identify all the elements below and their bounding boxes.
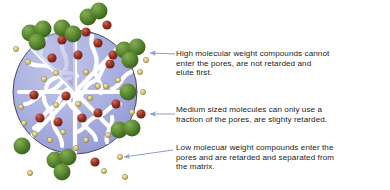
small-molecule <box>13 46 18 51</box>
small-molecule <box>32 131 37 136</box>
medium-molecule-callout-target <box>136 109 145 118</box>
small-molecule <box>75 101 80 106</box>
small-molecule <box>101 168 106 173</box>
callout-high-molecular-weight: High molecular weight compounds cannot e… <box>176 49 384 78</box>
small-molecule <box>21 120 26 125</box>
large-molecule-cluster <box>47 149 77 181</box>
medium-molecule <box>73 50 82 59</box>
medium-molecule <box>93 38 102 47</box>
large-molecule-cluster <box>80 3 108 26</box>
small-molecule <box>129 109 134 114</box>
small-molecule <box>25 59 30 64</box>
medium-molecule <box>90 157 99 166</box>
small-molecule <box>60 129 65 134</box>
small-molecule <box>122 174 127 179</box>
callout-low-molecular-weight: Low molecuar weight compounds enter the … <box>176 143 384 172</box>
medium-molecule <box>77 113 86 122</box>
small-molecule <box>83 137 88 142</box>
medium-molecule <box>61 91 70 100</box>
medium-molecule <box>29 90 38 99</box>
arrow-high-mw <box>150 53 175 54</box>
large-molecule-cluster <box>120 84 137 101</box>
small-molecule <box>27 170 32 175</box>
small-molecule <box>18 104 23 109</box>
medium-molecule <box>111 99 120 108</box>
small-molecule <box>53 102 58 107</box>
medium-molecule <box>47 53 56 62</box>
medium-molecule <box>93 108 102 117</box>
small-molecule <box>103 83 108 88</box>
large-molecule-cluster <box>14 138 31 155</box>
small-molecule <box>53 70 58 75</box>
small-molecule <box>41 76 46 81</box>
medium-molecule <box>35 113 44 122</box>
small-molecule <box>73 145 78 150</box>
small-molecule <box>117 154 122 159</box>
small-molecule <box>137 69 142 74</box>
small-molecule <box>83 69 88 74</box>
medium-molecule <box>81 27 90 36</box>
small-molecule <box>95 83 100 88</box>
medium-molecule <box>105 59 114 68</box>
medium-molecule <box>53 117 62 126</box>
callout-medium-sized-molecules: Medium sized molecules can only use a fr… <box>176 105 384 124</box>
medium-molecule <box>102 20 111 29</box>
small-molecule <box>47 137 52 142</box>
small-molecule <box>140 89 145 94</box>
small-molecule <box>87 95 92 100</box>
small-molecule <box>143 57 148 62</box>
small-molecule <box>115 77 120 82</box>
arrow-low-mw <box>124 150 173 157</box>
small-molecule <box>105 132 110 137</box>
